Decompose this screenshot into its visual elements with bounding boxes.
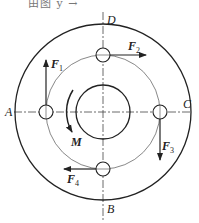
label-moment: M — [70, 135, 82, 149]
bolt-hole-bottom — [96, 162, 110, 176]
bolt-hole-left — [39, 105, 53, 119]
label-D: D — [106, 13, 116, 27]
label-C: C — [183, 97, 192, 111]
label-f2: F2 — [127, 39, 140, 55]
label-f3: F3 — [161, 139, 174, 155]
label-A: A — [4, 105, 13, 119]
moment-arrow — [67, 90, 73, 132]
bolt-hole-top — [96, 48, 110, 62]
label-f1: F1 — [50, 57, 63, 73]
label-B: B — [107, 202, 115, 216]
flange-bolt-force-diagram: D B A C F1 F2 F3 F4 M — [0, 0, 199, 223]
label-f4: F4 — [66, 172, 79, 188]
bolt-hole-right — [153, 105, 167, 119]
